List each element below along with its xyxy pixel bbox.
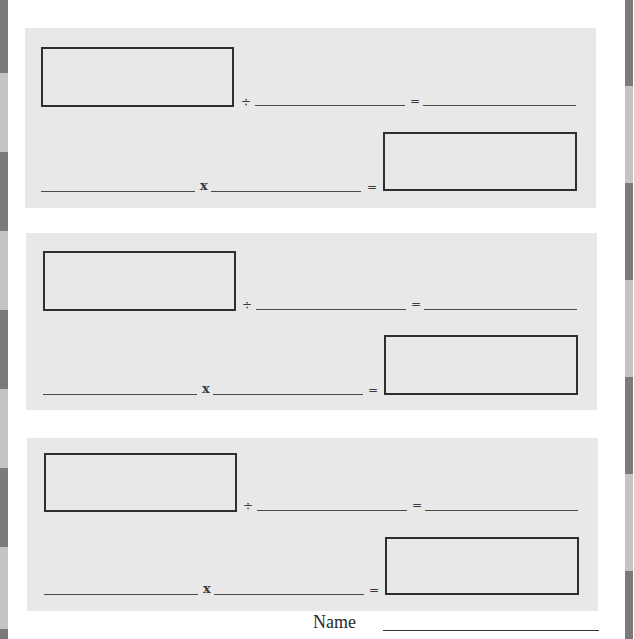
name-input-line[interactable] (383, 630, 599, 631)
edge-segment-dark (0, 152, 8, 231)
times-sign: x (203, 583, 211, 595)
dividend-box[interactable] (43, 251, 236, 311)
edge-segment-light (0, 73, 8, 152)
factor-line-2[interactable] (211, 191, 361, 192)
edge-segment-light (625, 86, 633, 183)
equals-sign: = (369, 584, 379, 596)
dividend-box[interactable] (44, 453, 237, 512)
quotient-line[interactable] (423, 105, 576, 106)
times-sign: x (202, 383, 210, 395)
factor-line-1[interactable] (43, 394, 197, 395)
edge-segment-dark (0, 468, 8, 547)
edge-segment-light (0, 231, 8, 310)
equals-sign: = (411, 298, 421, 310)
factor-line-2[interactable] (213, 394, 363, 395)
quotient-line[interactable] (425, 510, 578, 511)
edge-segment-dark (625, 571, 633, 639)
product-box[interactable] (385, 537, 579, 595)
factor-line-1[interactable] (44, 594, 198, 595)
equals-sign: = (368, 384, 378, 396)
equals-sign: = (410, 95, 420, 107)
product-box[interactable] (384, 335, 578, 395)
name-label: Name (313, 612, 356, 632)
factor-line-2[interactable] (214, 594, 364, 595)
factor-line-1[interactable] (41, 191, 195, 192)
edge-segment-dark (0, 629, 8, 639)
product-box[interactable] (383, 132, 577, 191)
equals-sign: = (412, 499, 422, 511)
edge-segment-dark (0, 310, 8, 389)
edge-segment-dark (625, 183, 633, 280)
edge-segment-dark (625, 0, 633, 86)
times-sign: x (200, 180, 208, 192)
quotient-line[interactable] (424, 309, 577, 310)
divisor-line[interactable] (256, 309, 406, 310)
edge-segment-dark (625, 377, 633, 474)
edge-segment-light (625, 474, 633, 571)
divisor-line[interactable] (257, 510, 407, 511)
divide-sign: ÷ (241, 96, 251, 108)
edge-segment-dark (0, 0, 8, 73)
edge-segment-light (625, 280, 633, 377)
edge-segment-light (0, 547, 8, 629)
left-edge-strip (0, 0, 8, 639)
divide-sign: ÷ (243, 500, 253, 512)
dividend-box[interactable] (41, 47, 234, 107)
divide-sign: ÷ (242, 299, 252, 311)
divisor-line[interactable] (255, 105, 405, 106)
equals-sign: = (367, 181, 377, 193)
right-edge-strip (625, 0, 633, 639)
edge-segment-light (0, 389, 8, 468)
